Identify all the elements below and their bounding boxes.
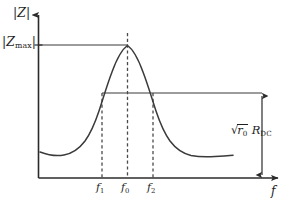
impedance-curve bbox=[40, 46, 233, 157]
zmax-subscript: max bbox=[15, 41, 32, 50]
zmax-tick-label: |Zmax| bbox=[2, 36, 36, 49]
sqrt-group: √r0 bbox=[231, 123, 248, 137]
sqrt-radicand-group: r0 bbox=[237, 124, 248, 137]
sqrt-radicand-subscript: 0 bbox=[243, 129, 248, 138]
y-axis-label-bar-right: | bbox=[26, 5, 30, 20]
level-annotation-factor-subscript: DC bbox=[260, 129, 271, 138]
y-axis-label: |Z| bbox=[13, 7, 30, 20]
f1-tick-label: f1 bbox=[96, 182, 105, 193]
level-annotation-label: √r0 RDC bbox=[231, 124, 272, 137]
f1-subscript: 1 bbox=[100, 187, 104, 195]
f0-subscript: 0 bbox=[125, 187, 129, 195]
sqrt-radicand: r bbox=[237, 123, 243, 137]
x-axis-label: f bbox=[271, 185, 275, 197]
f2-subscript: 2 bbox=[151, 187, 155, 195]
zmax-symbol: Z bbox=[6, 34, 15, 49]
impedance-resonance-figure: |Z| |Zmax| f1 f0 f2 f √r0 RDC bbox=[0, 0, 290, 207]
y-axis-label-symbol: Z bbox=[17, 5, 26, 20]
f2-tick-label: f2 bbox=[147, 182, 156, 193]
f0-tick-label: f0 bbox=[121, 182, 130, 193]
figure-canvas bbox=[0, 0, 290, 207]
x-axis-label-symbol: f bbox=[271, 184, 275, 198]
zmax-bar-right: | bbox=[32, 34, 36, 49]
